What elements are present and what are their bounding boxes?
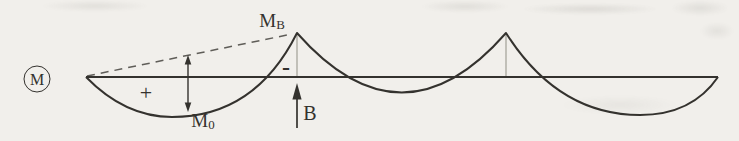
label-mb-subscript: B (276, 17, 285, 32)
label-m0-base: M (191, 110, 208, 131)
diagram-symbol-letter: M (30, 70, 44, 88)
label-support-b: B (303, 103, 316, 123)
m0-dimension-arrow (185, 55, 192, 112)
label-positive-sign: + (140, 82, 152, 104)
label-negative-sign: - (282, 55, 290, 79)
label-m0-subscript: 0 (208, 117, 214, 132)
closing-chord-dashed-line (87, 34, 292, 76)
moment-diagram-figure: M MB M0 B + - (0, 0, 739, 141)
label-mb-base: M (259, 10, 276, 31)
diagram-symbol-circled-m: M (24, 66, 51, 93)
support-b-reaction-arrow (292, 83, 301, 128)
diagram-canvas (0, 0, 739, 141)
label-span-moment-m0: M0 (191, 111, 214, 130)
moment-curve (86, 33, 718, 117)
label-peak-moment-mb: MB (259, 11, 285, 30)
